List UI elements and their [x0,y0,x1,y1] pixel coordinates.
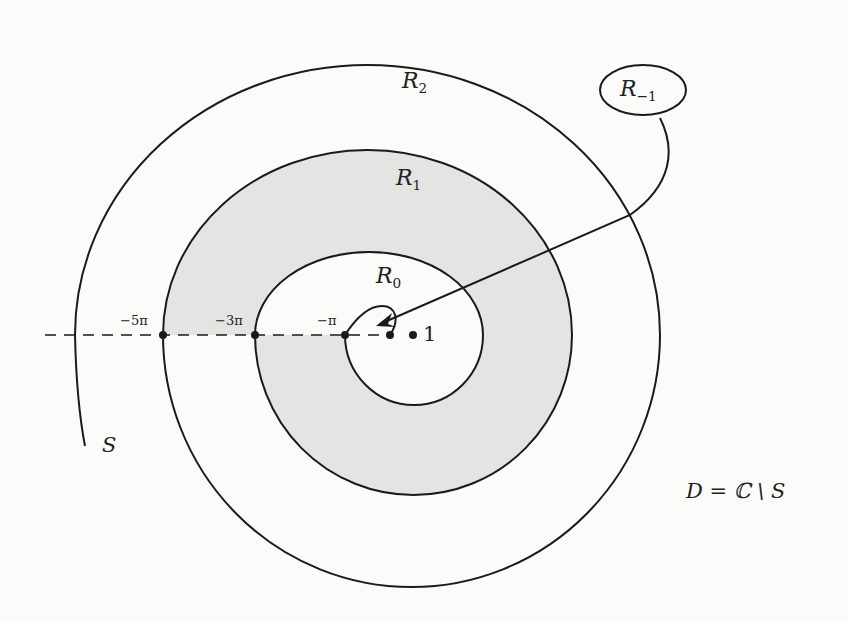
tick-label-one: 1 [423,322,436,346]
point-minus-3pi [251,331,259,339]
label-r-minus-1: R−1 [620,78,657,103]
label-r1: R1 [396,167,421,192]
point-minus-pi [341,331,349,339]
tick-label-minus-3pi: −3π [215,313,243,328]
point-origin [386,331,394,339]
tick-label-minus-5pi: −5π [120,313,148,328]
tick-label-minus-pi: −π [317,313,336,328]
label-r0: R0 [376,265,401,290]
label-curve-s: S [102,435,116,456]
spiral-diagram: R2 R1 R0 R−1 −5π −3π −π 1 S D = ℂ \ S [0,0,847,622]
point-one [409,331,417,339]
label-r2: R2 [402,70,427,95]
domain-equation: D = ℂ \ S [686,481,785,502]
point-minus-5pi [159,331,167,339]
